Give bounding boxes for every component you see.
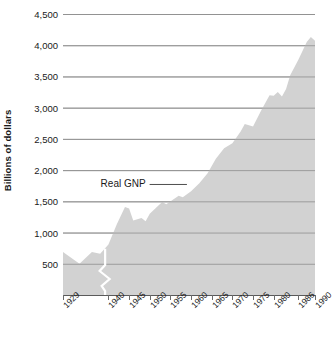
plot-svg: Real GNP: [63, 14, 315, 295]
series-annotation: Real GNP: [101, 178, 187, 189]
series-annotation-label: Real GNP: [101, 178, 146, 189]
y-axis-tick-label: 1,500: [34, 196, 58, 207]
y-axis-tick-label: 4,500: [34, 9, 58, 20]
x-axis-tick-label: 1990: [313, 290, 333, 310]
y-axis-tick-label: 500: [42, 258, 58, 269]
real-gnp-area-series: [63, 15, 315, 296]
y-axis-tick-label: 1,000: [34, 227, 58, 238]
y-axis-tick-label: 3,500: [34, 71, 58, 82]
y-axis-tick-label: 4,000: [34, 40, 58, 51]
y-axis-tick-label: 2,500: [34, 133, 58, 144]
area-fill: [63, 37, 315, 295]
plot-area: Real GNP: [63, 14, 315, 295]
y-axis-tick-labels: 4,5004,0003,5003,0002,5002,0001,5001,000…: [14, 0, 60, 339]
y-axis-title-text: Billions of dollars: [3, 109, 14, 191]
y-axis-tick-label: 2,000: [34, 165, 58, 176]
y-axis-tick-label: 3,000: [34, 102, 58, 113]
x-axis-tick-labels: 1929194019451950195519601965197019751980…: [63, 295, 315, 339]
